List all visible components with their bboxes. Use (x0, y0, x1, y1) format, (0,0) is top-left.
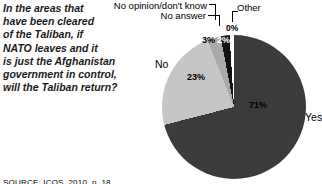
pie-value-no: 23% (187, 72, 205, 82)
survey-question-text: In the areas that have been cleared of t… (3, 2, 143, 94)
pie-value-no-opinion: 3% (202, 35, 215, 45)
pie-value-yes: 71% (249, 100, 267, 110)
pie-label-no: No (155, 58, 168, 70)
leader-line-no-answer (208, 15, 220, 26)
pie-label-other: Other (237, 2, 261, 13)
pie-chart (162, 35, 306, 179)
pie-value-other: 0% (226, 23, 238, 33)
pie-label-yes: Yes (305, 111, 322, 123)
figure-survey-pie-chart: In the areas that have been cleared of t… (0, 0, 322, 184)
pie-label-no-answer: No answer (161, 10, 206, 21)
source-citation: SOURCE: ICOS, 2010, p. 18 (3, 178, 111, 184)
leader-line-other (232, 11, 238, 22)
pie-value-no-answer: 2% (217, 35, 230, 45)
